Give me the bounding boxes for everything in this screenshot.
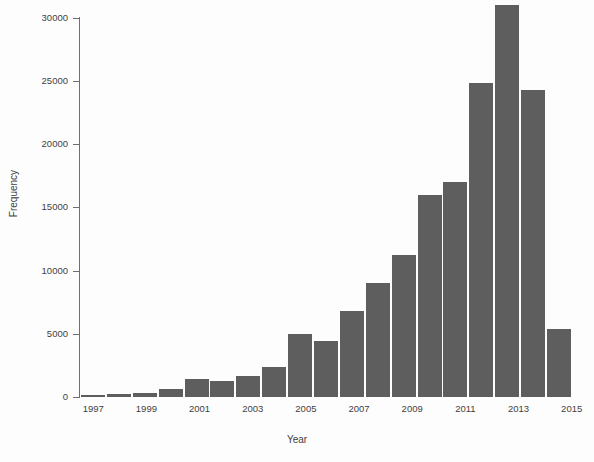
x-axis-tick-label: 2009 — [392, 404, 432, 414]
bar-slot — [339, 14, 365, 397]
x-axis-tick-label: 2011 — [445, 404, 485, 414]
x-axis-tick-label: 1999 — [126, 404, 166, 414]
bar-slot — [261, 14, 287, 397]
x-axis-tick-label: 2005 — [286, 404, 326, 414]
x-axis-tick-label: 2013 — [499, 404, 539, 414]
bar-slot — [132, 14, 158, 397]
bar-slot — [442, 14, 468, 397]
y-axis-tick — [73, 271, 79, 272]
x-axis-tick-label: 2007 — [339, 404, 379, 414]
bar[interactable] — [288, 334, 312, 397]
x-axis-title: Year — [0, 434, 594, 445]
y-axis-tick-label: 25000 — [0, 76, 68, 86]
bar[interactable] — [366, 283, 390, 397]
y-axis-title: Frequency — [8, 134, 19, 254]
bar[interactable] — [133, 393, 157, 397]
y-axis-tick — [73, 144, 79, 145]
bar[interactable] — [547, 329, 571, 397]
bar-series — [80, 14, 585, 397]
bar[interactable] — [392, 255, 416, 397]
bar[interactable] — [340, 311, 364, 397]
bar-slot — [287, 14, 313, 397]
bar-chart-figure: 050001000015000200002500030000 Frequency… — [0, 0, 594, 462]
bar-slot — [209, 14, 235, 397]
bar[interactable] — [495, 5, 519, 397]
bar-slot — [313, 14, 339, 397]
y-axis-tick — [73, 207, 79, 208]
bar-slot — [520, 14, 546, 397]
y-axis-tick-label: 0 — [0, 392, 68, 402]
bar-slot — [417, 14, 443, 397]
bar[interactable] — [314, 341, 338, 397]
bar-slot — [106, 14, 132, 397]
x-axis-tick-label: 2015 — [552, 404, 592, 414]
bar[interactable] — [418, 195, 442, 397]
x-axis-tick-label: 2003 — [233, 404, 273, 414]
y-axis-tick — [73, 81, 79, 82]
bar-slot — [494, 14, 520, 397]
y-axis-tick-label: 5000 — [0, 329, 68, 339]
bar[interactable] — [469, 83, 493, 397]
plot-area — [80, 14, 585, 397]
bar[interactable] — [107, 394, 131, 397]
bar-slot — [365, 14, 391, 397]
bar-slot — [546, 14, 572, 397]
bar-slot — [80, 14, 106, 397]
bar[interactable] — [262, 367, 286, 397]
bar[interactable] — [521, 90, 545, 397]
y-axis-tick-label: 30000 — [0, 13, 68, 23]
y-axis-tick — [73, 334, 79, 335]
y-axis-tick — [73, 18, 79, 19]
bar-slot — [235, 14, 261, 397]
x-axis-tick-label: 1997 — [73, 404, 113, 414]
bar[interactable] — [81, 395, 105, 397]
x-axis-tick-label: 2001 — [180, 404, 220, 414]
y-axis-tick-label: 10000 — [0, 266, 68, 276]
y-axis-tick — [73, 397, 79, 398]
bar-slot — [158, 14, 184, 397]
bar[interactable] — [159, 389, 183, 397]
bar-slot — [391, 14, 417, 397]
bar[interactable] — [236, 376, 260, 398]
bar[interactable] — [185, 379, 209, 397]
bar[interactable] — [210, 381, 234, 397]
bar-slot — [468, 14, 494, 397]
bar-slot — [184, 14, 210, 397]
bar[interactable] — [443, 182, 467, 397]
